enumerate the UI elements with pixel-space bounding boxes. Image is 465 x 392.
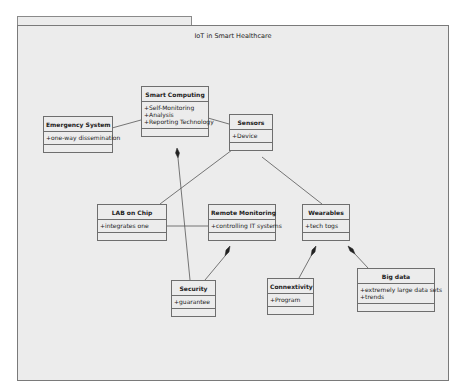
class-name: Smart Computing: [142, 87, 208, 102]
class-big-data[interactable]: Big data +extremely large data sets +tre…: [357, 268, 435, 312]
class-name: LAB on Chip: [98, 205, 166, 220]
relation-remote-security: [205, 256, 225, 280]
class-operations: [44, 145, 112, 152]
class-name: Emergency System: [44, 117, 112, 132]
class-name: Wearables: [303, 205, 349, 220]
class-lab-on-chip[interactable]: LAB on Chip +integrates one: [97, 204, 167, 241]
attribute: +Device: [232, 132, 270, 139]
class-attributes: +integrates one: [98, 220, 166, 233]
composition-diamond-icon: [311, 246, 316, 256]
class-operations: [172, 309, 215, 316]
relation-sensors-wearables: [262, 157, 322, 204]
relation-emergency-smart: [112, 120, 141, 128]
class-emergency-system[interactable]: Emergency System +one-way dissemination: [43, 116, 113, 153]
class-name: Remote Monitoring: [209, 205, 275, 220]
class-connectivity[interactable]: Connextivity +Program: [267, 278, 314, 315]
class-operations: [209, 233, 275, 240]
class-attributes: +Program: [268, 294, 313, 307]
class-attributes: +guarantee: [172, 296, 215, 309]
class-operations: [268, 307, 313, 314]
composition-diamond-icon: [176, 148, 180, 158]
attribute: +Self-Monitoring: [144, 104, 206, 111]
attribute: +Analysis: [144, 111, 206, 118]
class-name: Connextivity: [268, 279, 313, 294]
relation-wearables-bigdata: [355, 254, 368, 268]
attribute: +controlling IT systems: [211, 222, 273, 229]
attribute: +Reporting Technology: [144, 118, 206, 125]
class-name: Sensors: [230, 115, 272, 130]
class-attributes: +Self-Monitoring +Analysis +Reporting Te…: [142, 102, 208, 129]
relation-sensors-lab: [160, 150, 232, 204]
relation-smart-security: [178, 158, 190, 280]
class-operations: [358, 304, 434, 311]
class-attributes: +tech togs: [303, 220, 349, 233]
class-operations: [98, 233, 166, 240]
relation-wearables-connectivity: [299, 256, 311, 278]
class-attributes: +one-way dissemination: [44, 132, 112, 145]
attribute: +Program: [270, 296, 311, 303]
class-operations: [142, 129, 208, 136]
attribute: +extremely large data sets: [360, 286, 432, 293]
attribute: +one-way dissemination: [46, 134, 110, 141]
class-name: Security: [172, 281, 215, 296]
composition-diamond-icon: [348, 246, 355, 254]
class-operations: [303, 233, 349, 240]
class-attributes: +Device: [230, 130, 272, 143]
class-sensors[interactable]: Sensors +Device: [229, 114, 273, 151]
attribute: +guarantee: [174, 298, 213, 305]
class-wearables[interactable]: Wearables +tech togs: [302, 204, 350, 241]
class-attributes: +extremely large data sets +trends: [358, 284, 434, 304]
diagram-canvas: IoT in Smart Healthcare: [0, 0, 465, 392]
class-attributes: +controlling IT systems: [209, 220, 275, 233]
attribute: +tech togs: [305, 222, 347, 229]
class-name: Big data: [358, 269, 434, 284]
attribute: +trends: [360, 293, 432, 300]
attribute: +integrates one: [100, 222, 164, 229]
class-security[interactable]: Security +guarantee: [171, 280, 216, 317]
class-smart-computing[interactable]: Smart Computing +Self-Monitoring +Analys…: [141, 86, 209, 137]
composition-diamond-icon: [225, 246, 230, 256]
class-remote-monitoring[interactable]: Remote Monitoring +controlling IT system…: [208, 204, 276, 241]
relations-layer: [0, 0, 465, 392]
class-operations: [230, 143, 272, 150]
